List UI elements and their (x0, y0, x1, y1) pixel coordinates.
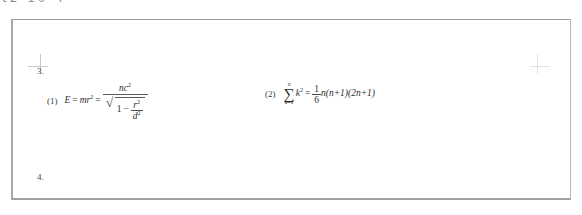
crop-mark-horizontal-line (530, 66, 550, 67)
summation-operator: n∑k=1 (284, 82, 295, 106)
formula-2-coefficient-fraction: 16 (312, 84, 321, 105)
formula-2-expression: n∑k=1k2=16n(n+1)(2n+1) (283, 82, 376, 106)
formula-1-numerator: nc2 (103, 83, 148, 95)
crop-mark-vertical-line (537, 54, 538, 74)
formula-2-equals: = (303, 88, 312, 98)
formula-1-equals-2: = (93, 95, 102, 105)
radical-sign-icon: √ (106, 96, 114, 110)
page-header-strip: t2 10 4 (0, 0, 582, 13)
formula-item-2: (2)n∑k=1k2=16n(n+1)(2n+1) (265, 82, 375, 106)
formula-2-coefficient-numerator: 1 (312, 84, 321, 95)
problem-number-3: 3. (37, 66, 44, 76)
formula-1-main-fraction: nc2√1−r2d2 (103, 83, 148, 120)
summation-lower-value: 1 (291, 99, 294, 105)
formula-1-radicand: 1−r2d2 (115, 97, 145, 120)
formula-2-tag: (2) (265, 89, 276, 99)
formula-1-radicand-operator: − (121, 104, 130, 114)
formula-2-coefficient-denominator: 6 (312, 95, 321, 105)
formula-1-tag: (1) (47, 96, 58, 106)
formula-1-denominator: √1−r2d2 (103, 95, 148, 120)
formula-1-inner-denominator: d2 (131, 111, 143, 121)
formula-item-1: (1)E=mr2=nc2√1−r2d2 (47, 82, 148, 119)
formula-1-inner-numerator-exponent: 2 (137, 99, 140, 105)
scanned-document-page: t2 10 4 3. 4. (1)E=mr2=nc2√1−r2d2 (2)n∑k… (0, 0, 582, 215)
formula-1-inner-denominator-exponent: 2 (138, 110, 141, 116)
formula-1-square-root: √1−r2d2 (106, 97, 145, 120)
summation-lower-limit: k=1 (284, 100, 295, 106)
formula-1-expression: E=mr2=nc2√1−r2d2 (65, 82, 148, 119)
formula-1-mr-term: mr (80, 95, 91, 105)
formula-1-numerator-exponent: 2 (128, 82, 131, 88)
formula-1-numerator-base: nc (119, 83, 128, 93)
formula-2-rhs-product: n(n+1)(2n+1) (321, 88, 375, 98)
formula-1-inner-fraction: r2d2 (131, 100, 143, 121)
problem-number-4: 4. (37, 172, 44, 182)
crop-mark-top-right-icon (530, 54, 550, 74)
page-header-text: t2 10 4 (2, 0, 66, 5)
formula-1-equals-1: = (70, 95, 79, 105)
